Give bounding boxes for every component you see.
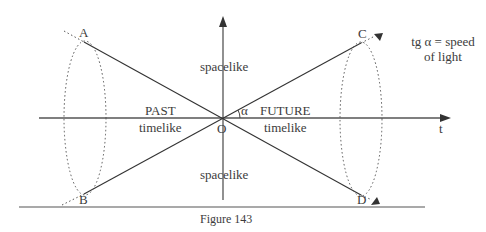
label-alpha: α <box>241 104 248 118</box>
angle-alpha-arc <box>238 110 240 118</box>
label-axis-t: t <box>439 122 443 136</box>
vertical-axis-arrow-icon <box>219 16 227 27</box>
label-past: PAST <box>145 104 176 118</box>
label-origin-O: O <box>217 122 226 136</box>
label-point-C: C <box>358 27 367 41</box>
label-point-D: D <box>357 193 366 207</box>
label-future-timelike: timelike <box>264 121 307 135</box>
label-future: FUTURE <box>260 104 311 118</box>
figure-caption: Figure 143 <box>200 212 252 226</box>
note-tg-alpha: tg α = speed <box>400 35 486 49</box>
label-point-B: B <box>79 193 88 207</box>
label-spacelike-bottom: spacelike <box>200 168 248 182</box>
future-cone-ellipse <box>340 42 382 196</box>
label-past-timelike: timelike <box>139 121 182 135</box>
label-spacelike-top: spacelike <box>200 60 248 74</box>
arrow-C-icon <box>374 33 383 41</box>
arrow-D-icon <box>371 197 380 205</box>
label-point-A: A <box>79 26 88 40</box>
note-speed-of-light: of light <box>400 50 486 64</box>
